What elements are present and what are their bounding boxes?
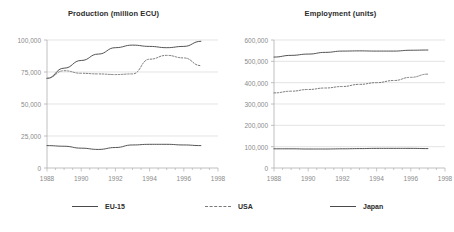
production-x-tick-label: 1998	[211, 175, 225, 182]
employment-x-tick-label: 1994	[369, 175, 383, 182]
production-x-tick-label: 1996	[177, 175, 191, 182]
production-chart-panel: Production (million ECU) 025,00050,00075…	[0, 0, 227, 190]
legend-line-swatch-eu-15	[72, 206, 98, 207]
employment-x-tick-label: 1996	[404, 175, 418, 182]
production-x-tick-label: 1994	[142, 175, 156, 182]
series-line-eu-15	[274, 50, 428, 57]
production-plot-svg	[0, 0, 227, 190]
employment-y-tick-label: 500,000	[227, 58, 268, 65]
series-line-eu-15	[47, 41, 201, 78]
employment-y-tick-label: 400,000	[227, 79, 268, 86]
legend-line-swatch-japan	[330, 206, 356, 207]
legend-line-swatch-usa	[205, 206, 231, 207]
employment-y-tick-label: 600,000	[227, 37, 268, 44]
legend-item-usa: USA	[205, 200, 253, 212]
production-x-tick-label: 1988	[40, 175, 54, 182]
employment-y-tick-label: 0	[227, 165, 268, 172]
production-y-tick-label: 25,000	[0, 133, 41, 140]
employment-y-tick-label: 200,000	[227, 122, 268, 129]
series-line-japan	[274, 148, 428, 149]
legend-item-eu-15: EU-15	[72, 200, 125, 212]
chart-figure: Production (million ECU) 025,00050,00075…	[0, 0, 454, 232]
employment-chart-panel: Employment (units) 0100,000200,000300,00…	[227, 0, 454, 190]
employment-x-tick-label: 1992	[335, 175, 349, 182]
production-y-tick-label: 0	[0, 165, 41, 172]
production-y-tick-label: 75,000	[0, 69, 41, 76]
legend-label-usa: USA	[238, 203, 253, 210]
series-line-usa	[274, 74, 428, 93]
production-y-tick-label: 100,000	[0, 37, 41, 44]
legend-item-japan: Japan	[330, 200, 383, 212]
chart-legend: EU-15 USA Japan	[0, 196, 454, 218]
employment-plot-svg	[227, 0, 454, 190]
employment-x-tick-label: 1998	[438, 175, 452, 182]
production-y-tick-label: 50,000	[0, 101, 41, 108]
employment-y-tick-label: 300,000	[227, 101, 268, 108]
legend-label-japan: Japan	[363, 203, 383, 210]
production-x-tick-label: 1990	[74, 175, 88, 182]
employment-y-tick-label: 100,000	[227, 143, 268, 150]
employment-x-tick-label: 1990	[301, 175, 315, 182]
employment-plot-area: 0100,000200,000300,000400,000500,000600,…	[227, 0, 454, 190]
production-plot-area: 025,00050,00075,000100,00019881990199219…	[0, 0, 227, 190]
employment-x-tick-label: 1988	[267, 175, 281, 182]
series-line-japan	[47, 144, 201, 149]
series-line-usa	[47, 55, 201, 78]
legend-label-eu-15: EU-15	[105, 203, 125, 210]
production-x-tick-label: 1992	[108, 175, 122, 182]
